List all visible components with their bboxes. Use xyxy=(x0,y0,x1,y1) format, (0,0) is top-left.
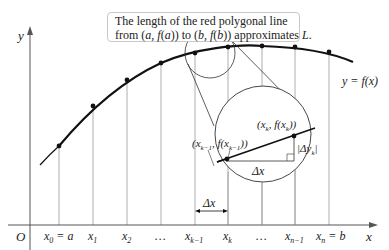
callout-line-2: from (a, f(a)) to (b, f(b)) approximates… xyxy=(115,28,299,42)
curve-thin xyxy=(40,146,59,165)
y-axis-label: y xyxy=(18,28,24,44)
callout-box: The length of the red polygonal line fro… xyxy=(107,12,300,42)
tick-ellipsis-2: … xyxy=(256,229,267,244)
tick-x0: x0 = a xyxy=(44,229,73,245)
tick-xk-1: xk−1 xyxy=(185,229,203,245)
point-prev-label: (xk−1, f(xk−1)) xyxy=(192,137,248,152)
tick-x1: x1 xyxy=(88,229,97,245)
interval-dx-label: Δx xyxy=(203,196,215,211)
curve-label: y = f(x) xyxy=(342,74,378,89)
magnifier-dx-label: Δx xyxy=(252,164,264,179)
zoom-line-lower xyxy=(188,64,214,126)
tick-ellipsis-1: … xyxy=(155,229,166,244)
point-curr-label: (xk, f(xk)) xyxy=(257,118,296,133)
magnifier-dy-label: |Δyk| xyxy=(297,142,318,157)
callout-line-1: The length of the red polygonal line xyxy=(115,14,299,28)
tick-xn-1: xn−1 xyxy=(285,229,304,245)
y-axis-arrow-icon xyxy=(27,26,33,35)
x-axis-arrow-icon xyxy=(369,222,378,228)
tick-x2: x2 xyxy=(122,229,131,245)
tick-xn: xn = b xyxy=(316,229,345,245)
x-axis-label: x xyxy=(366,229,372,245)
origin-label: O xyxy=(16,229,25,245)
tick-xk: xk xyxy=(223,229,232,245)
